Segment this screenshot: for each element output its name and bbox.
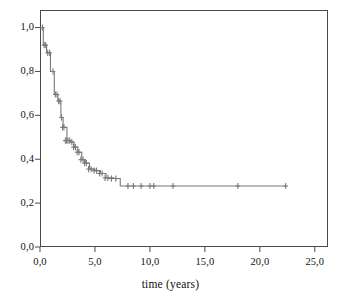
x-tick-label: 0,0: [20, 257, 60, 268]
survival-curve-figure: 0,00,20,40,60,81,0 0,05,010,015,020,025,…: [0, 0, 341, 303]
x-axis-title: time (years): [0, 278, 341, 290]
x-tick-label: 10,0: [130, 257, 170, 268]
x-tick-label: 5,0: [75, 257, 115, 268]
x-axis-tick-labels: 0,05,010,015,020,025,0: [0, 0, 341, 303]
x-tick-label: 25,0: [295, 257, 335, 268]
x-tick-label: 20,0: [240, 257, 280, 268]
x-tick-label: 15,0: [185, 257, 225, 268]
